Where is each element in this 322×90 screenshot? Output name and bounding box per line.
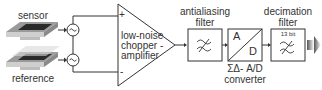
amp-plus-sign: + bbox=[119, 9, 125, 20]
decimation-label-line1: decimation bbox=[264, 6, 312, 17]
output-arrow-icon bbox=[307, 36, 321, 54]
antialiasing-filter-box bbox=[188, 29, 222, 61]
reference-label: reference bbox=[12, 73, 54, 84]
sensor-label: sensor bbox=[18, 10, 48, 21]
antialiasing-label-line1: antialiasing bbox=[180, 6, 230, 17]
decimation-bits-label: 13 bit bbox=[281, 31, 296, 38]
amp-minus-sign: - bbox=[120, 66, 123, 77]
reference-chip-icon bbox=[6, 46, 60, 70]
adc-digital-letter: D bbox=[249, 46, 257, 57]
ac-source-icon bbox=[67, 54, 79, 66]
ac-source-icon bbox=[67, 24, 79, 36]
adc-caption-line2: converter bbox=[224, 74, 266, 85]
antialiasing-label-line2: filter bbox=[196, 17, 215, 28]
decimation-label-line2: filter bbox=[279, 17, 298, 28]
sensor-chip-icon bbox=[6, 22, 58, 40]
adc-analog-letter: A bbox=[233, 31, 240, 42]
adc-caption-line1: ΣΔ- A/D bbox=[227, 63, 263, 74]
amplifier-label-line3: amplifier bbox=[121, 50, 159, 61]
